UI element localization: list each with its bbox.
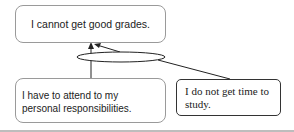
reason-text-1: I have to attend to my personal responsi… — [22, 89, 159, 115]
claim-box: I cannot get good grades. — [15, 5, 166, 43]
arrowhead-icon — [88, 42, 94, 49]
reason-box-2: I do not get time to study. — [176, 79, 281, 116]
divider — [0, 130, 294, 132]
joint-ellipse — [77, 52, 165, 62]
reason-box-1: I have to attend to my personal responsi… — [15, 78, 166, 123]
claim-text: I cannot get good grades. — [31, 18, 150, 30]
arrowhead-icon — [94, 43, 101, 48]
reason-text-2: I do not get time to study. — [185, 85, 272, 111]
